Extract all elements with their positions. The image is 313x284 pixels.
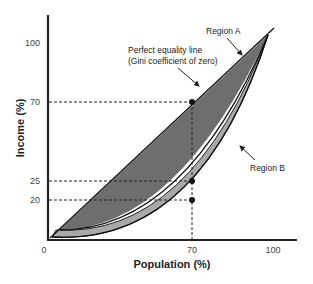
- y-tick-100: 100: [25, 38, 40, 48]
- x-axis-label: Population (%): [134, 258, 211, 270]
- y-tick-70: 70: [30, 97, 40, 107]
- region-a-arrow: [227, 38, 242, 55]
- region-a-label: Region A: [206, 26, 241, 36]
- x-tick-100: 100: [265, 245, 280, 255]
- x-tick-70: 70: [187, 245, 197, 255]
- lorenz-curve-diagram: 100 70 25 20 0 70 100 Population (%) Inc…: [0, 0, 313, 284]
- y-axis-label: Income (%): [14, 98, 26, 157]
- equality-line-label-2: (Gini coefficient of zero): [128, 56, 218, 66]
- y-tick-20: 20: [30, 195, 40, 205]
- x-tick-0: 0: [41, 245, 46, 255]
- y-tick-25: 25: [30, 176, 40, 186]
- equality-line-arrow: [178, 68, 199, 86]
- equality-line-label-1: Perfect equality line: [128, 45, 202, 55]
- region-b-arrow: [240, 146, 255, 160]
- region-b-label: Region B: [250, 163, 285, 173]
